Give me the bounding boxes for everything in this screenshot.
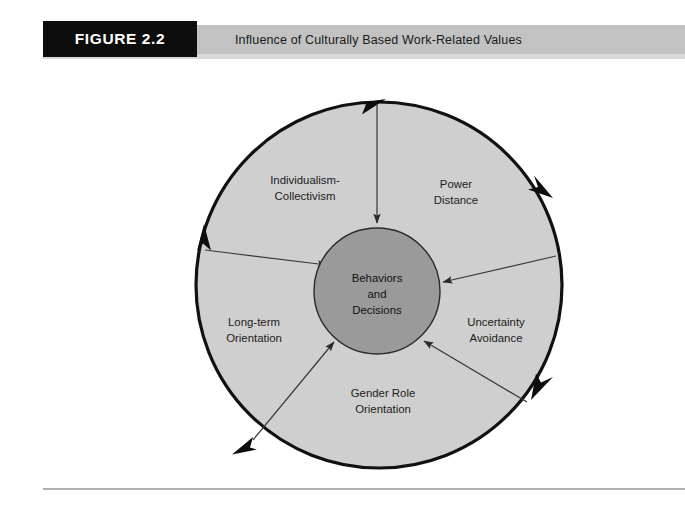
segment-label-line-1: Uncertainty	[467, 316, 525, 328]
figure-number-tag: FIGURE 2.2	[43, 21, 197, 57]
segment-label-line-1: Gender Role	[351, 387, 416, 399]
segment-label-line-2: Distance	[434, 194, 478, 206]
radial-cycle-diagram: Behaviors and Decisions Individualism- C…	[0, 60, 685, 490]
figure-page: FIGURE 2.2 Influence of Culturally Based…	[0, 0, 685, 508]
segment-label-line-2: Orientation	[226, 332, 282, 344]
segment-label-line-1: Power	[440, 178, 472, 190]
core-label-line-3: Decisions	[352, 304, 402, 316]
segment-label-line-2: Orientation	[355, 403, 411, 415]
bottom-rule-divider	[43, 488, 685, 490]
segment-label-line-1: Individualism-	[270, 174, 340, 186]
core-label-line-1: Behaviors	[352, 272, 403, 284]
figure-title: Influence of Culturally Based Work-Relat…	[235, 30, 522, 50]
segment-label-line-2: Avoidance	[470, 332, 523, 344]
core-label-line-2: and	[367, 288, 386, 300]
segment-label-line-1: Long-term	[228, 316, 280, 328]
segment-label-line-2: Collectivism	[275, 190, 336, 202]
